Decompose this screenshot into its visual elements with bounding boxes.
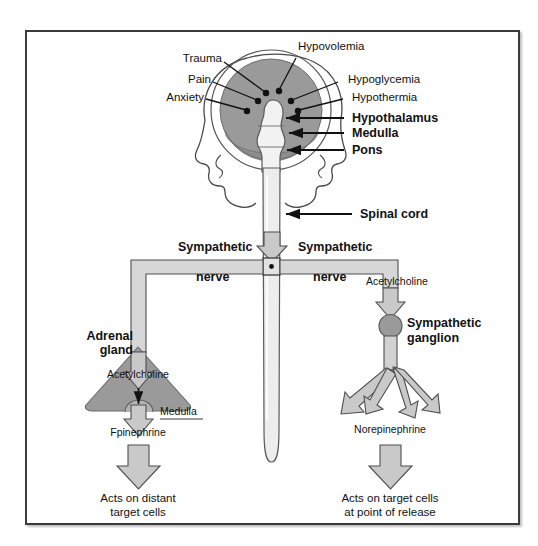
norepinephrine-arrows-group — [341, 367, 440, 418]
arrow-epinephrine-to-target — [117, 445, 160, 489]
label-left-outcome-2: target cells — [110, 506, 166, 519]
label-adrenal-1: Adrenal — [86, 329, 133, 343]
label-right-outcome-1: Acts on target cells — [341, 492, 438, 505]
label-medulla-adrenal: Medulla — [160, 406, 197, 418]
dot-hypoglycemia — [288, 98, 294, 104]
label-hypoglycemia: Hypoglycemia — [348, 73, 420, 86]
label-norepinephrine: Norepinephrine — [354, 424, 426, 436]
label-ganglion-2: ganglion — [407, 331, 459, 345]
dot-trauma — [263, 90, 269, 96]
spinal-cord-shape — [263, 168, 280, 462]
junction-dot — [269, 264, 274, 269]
label-acetylcholine-adrenal: Acetylcholine — [107, 369, 169, 381]
arrow-norepi-to-target — [369, 445, 412, 489]
label-sympathetic-right-1: Sympathetic — [298, 240, 372, 254]
label-sympathetic-left-1: Sympathetic — [178, 240, 252, 254]
label-ganglion-1: Sympathetic — [407, 316, 481, 330]
spinal-cord-group — [263, 168, 280, 462]
label-sympathetic-left-2: nerve — [196, 270, 229, 284]
label-epinephrine: Fpinephrine — [110, 427, 165, 439]
label-hypovolemia: Hypovolemia — [298, 40, 364, 53]
postganglionic-trunk — [384, 336, 397, 370]
nerve-junction-node — [263, 258, 280, 275]
dot-hypothermia — [295, 108, 301, 114]
label-adrenal-2: gland — [100, 343, 133, 357]
sympathetic-ganglion-shape — [379, 315, 402, 338]
label-sympathetic-right-2: nerve — [313, 270, 346, 284]
label-spinal-cord: Spinal cord — [360, 207, 428, 221]
label-pons: Pons — [352, 143, 383, 157]
dot-pain — [255, 98, 261, 104]
label-right-outcome-2: at point of release — [344, 506, 435, 519]
label-anxiety: Anxiety — [166, 91, 204, 104]
label-pain: Pain — [188, 73, 211, 86]
label-acetylcholine-ganglion: Acetylcholine — [366, 276, 428, 288]
figure-root: Trauma Hypovolemia Pain Hypoglycemia Anx… — [0, 0, 538, 546]
label-left-outcome-1: Acts on distant — [100, 492, 175, 505]
label-medulla-brain: Medulla — [352, 126, 399, 140]
dot-anxiety — [244, 108, 250, 114]
label-hypothermia: Hypothermia — [352, 91, 417, 104]
diagram-graphics — [0, 0, 538, 546]
face-contour-right — [318, 155, 325, 178]
label-trauma: Trauma — [183, 52, 222, 65]
face-contour-left — [216, 155, 223, 178]
dot-hypovolemia — [276, 88, 282, 94]
label-hypothalamus: Hypothalamus — [352, 111, 438, 125]
